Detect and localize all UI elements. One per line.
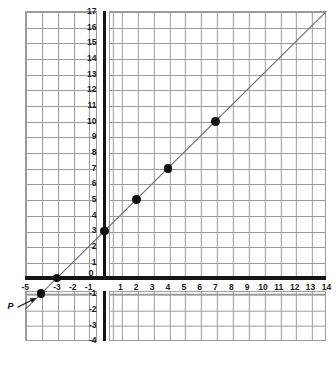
point-p-label: P [8,302,14,311]
coordinate-grid-figure: -5-3-2-112345678910111213141716151413121… [0,0,336,377]
annotation-layer [0,0,336,377]
